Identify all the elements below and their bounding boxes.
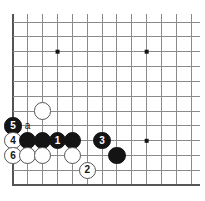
stone-black-move-3[interactable]: 3 (93, 132, 110, 149)
go-board (0, 0, 205, 201)
star-point (145, 50, 149, 54)
star-point (56, 50, 60, 54)
star-point (145, 139, 149, 143)
go-diagram: 546132 a (0, 0, 205, 201)
stone-move-number: 6 (10, 150, 16, 160)
stone-move-number: 2 (84, 165, 90, 175)
stone-move-number: 4 (10, 135, 16, 145)
stone-white-move-2[interactable]: 2 (79, 162, 96, 179)
stone-white[interactable] (34, 102, 51, 119)
stone-move-number: 1 (55, 135, 61, 145)
point-label-a: a (25, 121, 31, 131)
stone-move-number: 5 (10, 120, 16, 130)
stone-move-number: 3 (99, 135, 105, 145)
stone-black[interactable] (108, 147, 125, 164)
